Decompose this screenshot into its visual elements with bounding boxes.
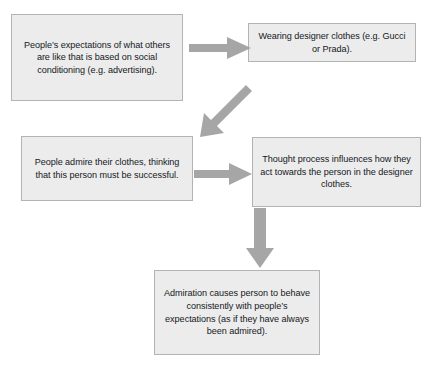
arrow-right-icon-2: [194, 162, 252, 186]
box-designer-clothes: Wearing designer clothes (e.g. Gucci or …: [248, 23, 416, 62]
diagram-canvas: People’s expectations of what others are…: [0, 0, 432, 367]
arrow-down-icon: [246, 208, 280, 268]
box-thought-process: Thought process influences how they act …: [252, 137, 421, 207]
box-expectations-text: People’s expectations of what others are…: [18, 39, 176, 77]
box-designer-clothes-text: Wearing designer clothes (e.g. Gucci or …: [255, 30, 409, 55]
box-expectations: People’s expectations of what others are…: [11, 14, 183, 101]
box-admiration-causes: Admiration causes person to behave consi…: [154, 270, 320, 355]
box-admiration-causes-text: Admiration causes person to behave consi…: [161, 287, 313, 337]
box-thought-process-text: Thought process influences how they act …: [259, 153, 414, 191]
arrow-right-icon: [189, 36, 251, 60]
box-people-admire-text: People admire their clothes, thinking th…: [28, 156, 186, 181]
arrow-down-left-icon: [198, 85, 252, 139]
box-people-admire: People admire their clothes, thinking th…: [21, 136, 193, 201]
